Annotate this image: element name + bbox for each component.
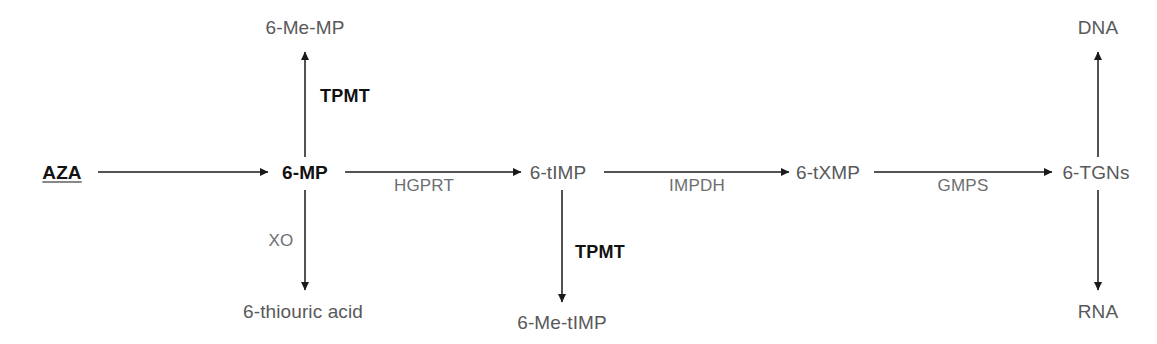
node-6-me-timp: 6-Me-tIMP: [517, 313, 607, 332]
enzyme-impdh: IMPDH: [669, 177, 725, 194]
node-6-timp: 6-tIMP: [530, 163, 587, 182]
node-6-txmp: 6-tXMP: [796, 163, 860, 182]
enzyme-hgprt: HGPRT: [394, 177, 454, 194]
node-aza: AZA: [42, 163, 81, 182]
enzyme-tpmt-upper: TPMT: [320, 87, 370, 105]
enzyme-xo: XO: [269, 232, 294, 249]
node-dna: DNA: [1078, 18, 1118, 37]
enzyme-gmps: GMPS: [938, 177, 989, 194]
enzyme-tpmt-lower: TPMT: [575, 243, 625, 261]
node-rna: RNA: [1078, 302, 1118, 321]
pathway-diagram: AZA 6-MP 6-Me-MP 6-thiouric acid 6-tIMP …: [0, 0, 1157, 344]
node-6-thiouric-acid: 6-thiouric acid: [243, 302, 363, 321]
node-6-tgns: 6-TGNs: [1062, 163, 1129, 182]
node-6-mp: 6-MP: [282, 163, 328, 182]
node-6-me-mp: 6-Me-MP: [266, 18, 345, 37]
